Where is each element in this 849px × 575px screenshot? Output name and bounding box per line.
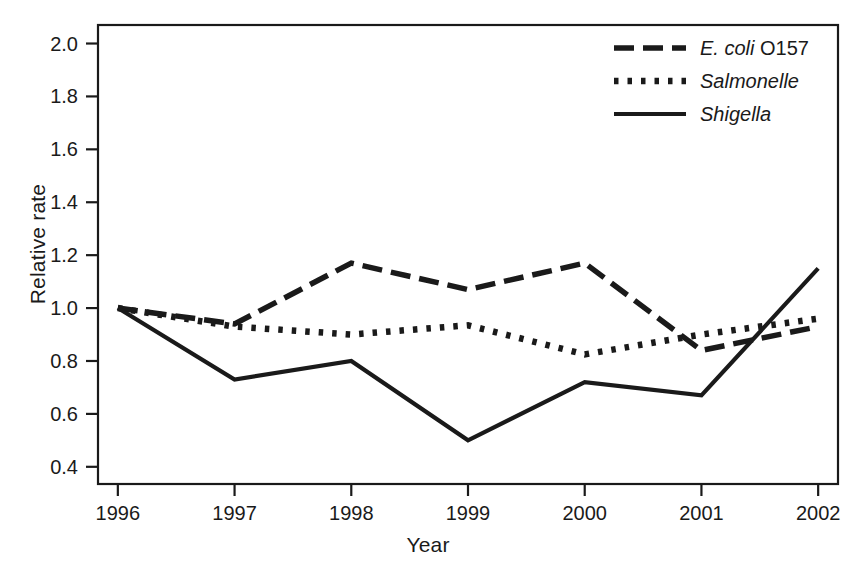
chart-figure: 0.40.60.81.01.21.41.61.82.0 199619971998… — [0, 0, 849, 575]
x-tick-label: 1997 — [212, 502, 257, 524]
plot-border — [98, 25, 838, 484]
x-tick-label: 2001 — [679, 502, 724, 524]
y-axis-title: Relative rate — [26, 144, 50, 344]
x-tick-label: 1998 — [329, 502, 374, 524]
data-series-group — [118, 263, 818, 440]
y-tick-label: 0.6 — [50, 403, 78, 425]
x-tick-label: 2002 — [796, 502, 841, 524]
series-line — [118, 263, 818, 350]
y-tick-label: 1.4 — [50, 191, 78, 213]
y-tick-label: 1.2 — [50, 244, 78, 266]
series-line — [118, 268, 818, 440]
legend-label: Salmonelle — [700, 70, 799, 92]
y-axis-ticks: 0.40.60.81.01.21.41.61.82.0 — [50, 33, 98, 478]
x-axis-title: Year — [368, 533, 488, 557]
plot-frame — [98, 25, 838, 484]
x-tick-label: 2000 — [562, 502, 607, 524]
y-tick-label: 1.6 — [50, 138, 78, 160]
y-tick-label: 2.0 — [50, 33, 78, 55]
line-chart-canvas: 0.40.60.81.01.21.41.61.82.0 199619971998… — [0, 0, 849, 575]
y-tick-label: 0.8 — [50, 350, 78, 372]
legend-label: Shigella — [700, 103, 771, 125]
y-tick-label: 1.8 — [50, 85, 78, 107]
y-tick-label: 1.0 — [50, 297, 78, 319]
x-tick-label: 1999 — [446, 502, 491, 524]
y-tick-label: 0.4 — [50, 456, 78, 478]
legend-label: E. coli O157 — [700, 37, 809, 59]
chart-legend: E. coli O157SalmonelleShigella — [614, 37, 809, 125]
x-tick-label: 1996 — [96, 502, 141, 524]
x-axis-ticks: 1996199719981999200020012002 — [96, 484, 841, 524]
